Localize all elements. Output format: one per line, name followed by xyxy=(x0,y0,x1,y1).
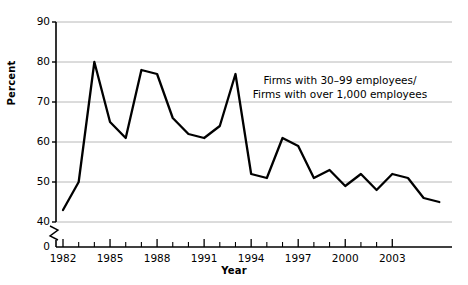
x-tick-label: 1991 xyxy=(184,252,224,264)
x-tick-label: 1985 xyxy=(90,252,130,264)
x-axis-title: Year xyxy=(0,265,468,276)
series-annotation-line-1: Firms with 30–99 employees/ xyxy=(230,74,450,88)
y-tick-label: 60 xyxy=(24,135,50,147)
x-tick-label: 2000 xyxy=(325,252,365,264)
chart-container: Percent Year 0405060708090 1982198519881… xyxy=(0,0,468,285)
y-tick-label: 80 xyxy=(24,55,50,67)
y-tick-label: 40 xyxy=(24,215,50,227)
y-axis-line xyxy=(52,22,56,247)
y-axis-title: Percent xyxy=(6,92,17,106)
x-tick-label: 1994 xyxy=(231,252,271,264)
x-tick-label: 1997 xyxy=(278,252,318,264)
x-axis-ticks xyxy=(63,239,392,247)
y-tick-label: 70 xyxy=(24,95,50,107)
x-tick-label: 2003 xyxy=(372,252,412,264)
gridlines xyxy=(56,22,452,222)
y-tick-label: 0 xyxy=(24,240,50,252)
line-chart-plot xyxy=(0,0,468,285)
series-annotation: Firms with 30–99 employees/ Firms with o… xyxy=(230,74,450,101)
break-zigzag xyxy=(50,226,58,240)
x-tick-label: 1982 xyxy=(43,252,83,264)
x-tick-label: 1988 xyxy=(137,252,177,264)
axis-break-mark xyxy=(50,226,58,240)
y-tick-label: 50 xyxy=(24,175,50,187)
series-annotation-line-2: Firms with over 1,000 employees xyxy=(230,88,450,102)
y-tick-label: 90 xyxy=(24,15,50,27)
